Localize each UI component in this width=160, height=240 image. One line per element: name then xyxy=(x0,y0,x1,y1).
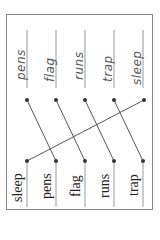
top-word-pens: pens xyxy=(14,49,28,80)
top-dot[interactable] xyxy=(83,98,87,102)
top-dot[interactable] xyxy=(112,98,116,102)
bottom-word-sleep: sleep xyxy=(10,173,26,202)
bottom-word-runs: runs xyxy=(97,174,113,198)
connector-pens xyxy=(27,100,56,161)
bottom-dot[interactable] xyxy=(141,159,145,163)
bottom-dot[interactable] xyxy=(54,159,58,163)
bottom-word-pens: pens xyxy=(39,173,55,199)
top-word-runs: runs xyxy=(72,52,86,80)
connector-runs xyxy=(85,100,114,161)
bottom-word-flag: flag xyxy=(68,175,84,197)
connector-trap xyxy=(114,100,143,161)
bottom-dot[interactable] xyxy=(25,159,29,163)
top-word-sleep: sleep xyxy=(130,51,144,85)
top-dot[interactable] xyxy=(54,98,58,102)
top-word-flag: flag xyxy=(43,57,57,82)
connector-sleep xyxy=(27,100,144,161)
bottom-dot[interactable] xyxy=(83,159,87,163)
bottom-dot[interactable] xyxy=(112,159,116,163)
top-dot[interactable] xyxy=(142,98,146,102)
top-word-trap: trap xyxy=(101,55,115,82)
top-dot[interactable] xyxy=(25,98,29,102)
connector-flag xyxy=(56,100,85,161)
bottom-word-trap: trap xyxy=(126,174,142,196)
